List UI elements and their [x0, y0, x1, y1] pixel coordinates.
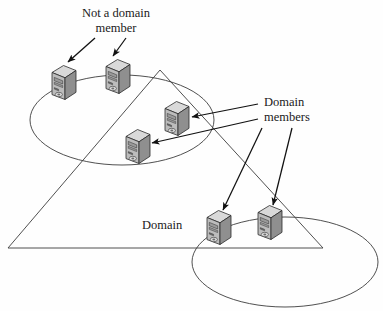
arrow-not-member-to-server-1 [68, 38, 95, 62]
label-domain: Domain [142, 218, 208, 233]
domain-membership-diagram: Not a domain member Domain members Domai… [0, 0, 383, 311]
server-icon-top-left-outside [52, 66, 76, 100]
arrow-members-to-server-6 [273, 128, 292, 205]
arrow-not-member-to-server-2 [113, 38, 126, 56]
label-domain-members: Domain members [264, 95, 376, 125]
server-icon-domain-bottom-right [258, 206, 282, 240]
server-icons [52, 60, 282, 245]
label-not-a-domain-member: Not a domain member [58, 6, 174, 36]
server-icon-top-middle-outside [106, 60, 130, 94]
server-icon-domain-upper [165, 102, 189, 136]
arrow-members-to-server-5 [223, 128, 262, 210]
server-icon-domain-bottom-left [207, 211, 231, 245]
server-icon-domain-lower [126, 130, 150, 164]
diagram-canvas [0, 0, 383, 311]
arrow-members-to-server-3 [192, 104, 258, 117]
